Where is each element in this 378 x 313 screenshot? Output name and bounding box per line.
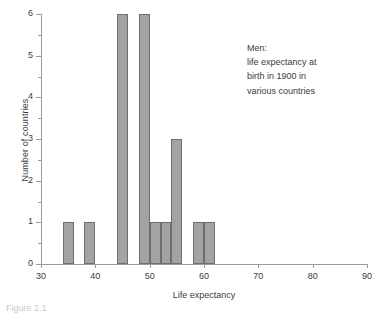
chart-annotation: Men: life expectancy at birth in 1900 in… <box>247 41 367 98</box>
y-tick-minor <box>38 243 41 244</box>
y-axis-line <box>41 14 42 264</box>
y-tick-label: 6 <box>20 9 33 18</box>
annotation-line-2: life expectancy at <box>247 55 367 69</box>
x-tick-label: 70 <box>243 272 273 281</box>
y-tick-minor <box>38 118 41 119</box>
histogram-figure: Number of countries 0123456 304050607080… <box>0 0 378 313</box>
x-tick-major <box>258 264 259 268</box>
histogram-bar <box>63 222 74 264</box>
y-tick-label: 3 <box>20 134 33 143</box>
y-tick-major <box>36 222 41 223</box>
histogram-bar <box>204 222 215 264</box>
y-tick-label: 4 <box>20 92 33 101</box>
x-tick-label: 90 <box>352 272 378 281</box>
y-tick-minor <box>38 35 41 36</box>
y-tick-minor <box>38 160 41 161</box>
y-tick-major <box>36 56 41 57</box>
y-tick-label: 0 <box>20 259 33 268</box>
annotation-line-3: birth in 1900 in <box>247 69 367 83</box>
y-tick-minor <box>38 202 41 203</box>
x-tick-label: 60 <box>189 272 219 281</box>
y-tick-minor <box>38 77 41 78</box>
x-tick-major <box>313 264 314 268</box>
annotation-line-1: Men: <box>247 41 367 55</box>
y-tick-major <box>36 97 41 98</box>
y-tick-label: 1 <box>20 217 33 226</box>
x-tick-major <box>41 264 42 268</box>
histogram-bar <box>171 139 182 264</box>
histogram-bar <box>84 222 95 264</box>
x-axis-title: Life expectancy <box>41 290 367 300</box>
x-tick-major <box>367 264 368 268</box>
histogram-bar <box>117 14 128 264</box>
y-tick-major <box>36 14 41 15</box>
figure-caption: Figure 2.1 <box>6 303 126 313</box>
x-tick-major <box>95 264 96 268</box>
annotation-line-4: various countries <box>247 84 367 98</box>
histogram-bar <box>193 222 204 264</box>
y-tick-label: 5 <box>20 51 33 60</box>
histogram-bar <box>139 14 150 264</box>
histogram-bar <box>150 222 161 264</box>
x-tick-label: 40 <box>80 272 110 281</box>
x-tick-major <box>204 264 205 268</box>
x-tick-label: 30 <box>26 272 56 281</box>
x-tick-label: 80 <box>298 272 328 281</box>
y-tick-major <box>36 139 41 140</box>
y-tick-label: 2 <box>20 176 33 185</box>
y-tick-major <box>36 181 41 182</box>
x-tick-major <box>150 264 151 268</box>
histogram-bar <box>161 222 172 264</box>
x-tick-label: 50 <box>135 272 165 281</box>
